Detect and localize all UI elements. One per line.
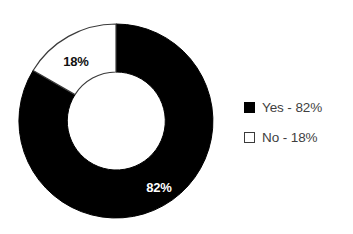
legend-swatch-filled-icon bbox=[244, 102, 255, 113]
donut-plot-area: 18% 82% bbox=[0, 0, 240, 234]
slice-data-label-yes: 82% bbox=[146, 180, 172, 195]
legend-label-no: No - 18% bbox=[262, 130, 317, 145]
legend-swatch-outlined-icon bbox=[244, 132, 255, 143]
chart-legend: Yes - 82% No - 18% bbox=[244, 92, 352, 152]
legend-label-yes: Yes - 82% bbox=[262, 100, 322, 115]
legend-item-no[interactable]: No - 18% bbox=[244, 122, 352, 152]
slice-data-label-no: 18% bbox=[63, 54, 89, 69]
donut-chart-figure: 18% 82% Yes - 82% No - 18% bbox=[0, 0, 353, 234]
legend-item-yes[interactable]: Yes - 82% bbox=[244, 92, 352, 122]
donut-svg: 18% 82% bbox=[0, 0, 240, 234]
